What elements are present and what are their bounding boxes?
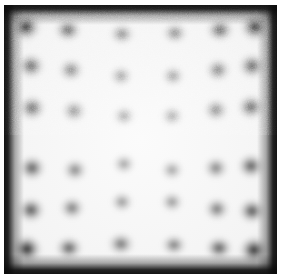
micrograph-field <box>4 5 277 274</box>
image-canvas <box>0 0 281 278</box>
film-grain-overlay <box>4 5 277 135</box>
